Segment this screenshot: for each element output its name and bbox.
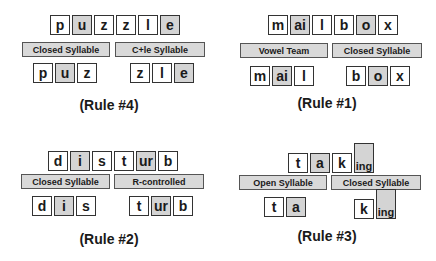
letter-tile: s: [76, 196, 96, 216]
letter-tile: l: [294, 66, 314, 86]
syllable-type-label: Closed Syllable: [331, 175, 421, 190]
letter-tile: m: [268, 15, 288, 35]
letter-tile: p: [50, 15, 70, 35]
letter-tile: z: [77, 63, 97, 83]
letter-tile: z: [130, 63, 150, 83]
letter-tile: ai: [290, 15, 310, 35]
syllable-type-label: Closed Syllable: [21, 174, 110, 189]
letter-tile: z: [94, 15, 114, 35]
syllable-row: turb: [129, 196, 195, 216]
letter-tile: ai: [272, 66, 292, 86]
syllable-row: puz: [33, 63, 99, 83]
syllable-type-label: Closed Syllable: [22, 42, 110, 57]
syllable-type-label: Closed Syllable: [332, 43, 422, 58]
syllable-row: king: [354, 189, 398, 219]
letter-tile: e: [174, 63, 194, 83]
rule-caption: (Rule #3): [218, 228, 436, 244]
syllable-row: zle: [130, 63, 196, 83]
syllable-row: mail: [250, 66, 316, 86]
syllable-row: dis: [32, 196, 98, 216]
letter-tile: e: [160, 15, 180, 35]
letter-tile: m: [250, 66, 270, 86]
letter-tile: b: [334, 15, 354, 35]
letter-tile: x: [378, 15, 398, 35]
letter-tile: k: [354, 199, 374, 219]
syllable-type-label: R-controlled: [114, 174, 204, 189]
letter-tile: t: [129, 196, 149, 216]
syllable-row: ta: [264, 197, 308, 217]
letter-tile: o: [356, 15, 376, 35]
letter-tile: k: [332, 153, 352, 173]
syllable-type-label: C+le Syllable: [115, 42, 205, 57]
word-row-mailbox: mailbox: [268, 15, 400, 35]
word-row-disturb: disturb: [48, 151, 180, 171]
letter-tile: s: [92, 151, 112, 171]
letter-tile: l: [138, 15, 158, 35]
letter-tile: t: [114, 151, 134, 171]
word-row-puzzle: puzzle: [50, 15, 182, 35]
syllable-type-label: Open Syllable: [239, 175, 327, 190]
letter-tile: ur: [151, 196, 171, 216]
letter-tile: a: [310, 153, 330, 173]
letter-tile: ing: [354, 143, 374, 173]
letter-tile: u: [55, 63, 75, 83]
rule-caption: (Rule #1): [218, 95, 436, 111]
letter-tile: i: [54, 196, 74, 216]
letter-tile: u: [72, 15, 92, 35]
letter-tile: a: [286, 197, 306, 217]
letter-tile: ur: [136, 151, 156, 171]
letter-tile: x: [390, 66, 410, 86]
letter-tile: d: [32, 196, 52, 216]
letter-tile: l: [152, 63, 172, 83]
word-row-taking: taking: [288, 143, 376, 173]
letter-tile: i: [70, 151, 90, 171]
rule-caption: (Rule #4): [0, 97, 218, 113]
letter-tile: ing: [376, 189, 396, 219]
syllable-row: box: [346, 66, 412, 86]
letter-tile: p: [33, 63, 53, 83]
letter-tile: b: [158, 151, 178, 171]
letter-tile: o: [368, 66, 388, 86]
letter-tile: b: [346, 66, 366, 86]
letter-tile: z: [116, 15, 136, 35]
letter-tile: d: [48, 151, 68, 171]
syllable-type-label: Vowel Team: [240, 43, 328, 58]
letter-tile: b: [173, 196, 193, 216]
letter-tile: t: [264, 197, 284, 217]
letter-tile: t: [288, 153, 308, 173]
letter-tile: l: [312, 15, 332, 35]
rule-caption: (Rule #2): [0, 231, 218, 247]
